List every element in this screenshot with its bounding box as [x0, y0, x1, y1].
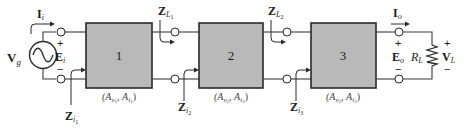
output-terminal-positive: [395, 28, 403, 36]
zl1-label: ZL1: [158, 4, 173, 20]
input-voltage-label: Ei: [55, 50, 65, 65]
zi1-label: Zi1: [65, 109, 78, 125]
output-terminal-negative: [395, 75, 403, 83]
load-voltage-minus-sign: −: [444, 63, 450, 75]
stage-3-number: 3: [340, 48, 347, 63]
zl2-label: ZL2: [268, 4, 283, 20]
zi3-label: Zi3: [290, 100, 303, 116]
input-current-label: Ii: [37, 7, 44, 22]
stage-2-output-terminal-top: [283, 28, 291, 36]
input-terminal-negative: [57, 75, 65, 83]
stage-2-input-terminal-bottom: [171, 75, 179, 83]
stage-1-number: 1: [116, 48, 123, 63]
load-resistor-icon: [427, 45, 437, 66]
ac-voltage-source: [30, 32, 57, 79]
load-voltage-label: VL: [442, 50, 456, 65]
zi3-arrow: [296, 70, 306, 101]
input-terminal-positive: [57, 28, 65, 36]
zl1-arrow: [160, 20, 170, 42]
zi2-arrow: [184, 70, 194, 101]
output-current-label: Io: [393, 6, 402, 21]
stage-3-input-terminal-bottom: [283, 75, 291, 83]
zi1-arrow: [71, 70, 81, 105]
output-plus-sign: +: [395, 37, 401, 49]
stage-3-gains: (Av3, Ai3): [326, 91, 360, 104]
stage-1-gains: (Av1, Ai1): [102, 91, 136, 104]
input-plus-sign: +: [57, 37, 63, 49]
output-voltage-label: Eo: [392, 50, 404, 65]
source-voltage-label: Vg: [7, 50, 21, 67]
stage-2-number: 2: [228, 48, 235, 63]
stage-2-gains: (Av2, Ai2): [214, 91, 248, 104]
zl2-arrow: [271, 20, 281, 42]
zi2-label: Zi2: [178, 100, 191, 116]
load-resistor-label: RL: [410, 50, 423, 65]
stage-1-output-terminal-top: [171, 28, 179, 36]
cascaded-amplifier-diagram: Vg Ii + − Ei Zi1 1 (Av1, Ai1) ZL1 Zi2: [0, 0, 467, 129]
load-voltage-plus-sign: +: [444, 37, 450, 49]
